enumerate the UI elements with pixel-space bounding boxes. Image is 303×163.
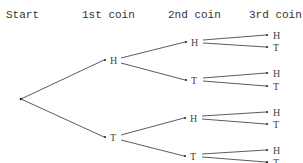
node-3-TTT: T [266,157,279,163]
node-1-H: H [104,55,117,66]
header-start: Start [6,9,39,21]
edge-HH-HHH [203,35,266,40]
header-2nd-coin: 2nd coin [168,9,221,21]
edge-H-HH [121,42,185,58]
node-3-TTH: H [266,145,280,156]
edge-HH-HHT [203,43,266,47]
node-2-HT: T [185,75,197,86]
edge-TT-TTH [202,150,266,154]
node-3-HHH: H [266,30,280,41]
svg-text:H: H [273,107,280,118]
probability-tree-diagram: Start 1st coin 2nd coin 3rd coin H T H T… [0,0,303,163]
svg-text:H: H [191,37,198,48]
svg-text:T: T [273,42,279,53]
svg-text:H: H [273,68,280,79]
edge-H-HT [121,63,185,80]
svg-text:T: T [191,75,197,86]
edge-start-H [21,60,104,99]
node-1-T: T [104,132,116,143]
node-3-HHT: T [266,42,279,53]
svg-text:H: H [190,113,197,124]
node-2-TT: T [184,151,196,162]
svg-text:T: T [273,119,279,130]
svg-text:H: H [273,145,280,156]
edge-start-T [21,99,104,137]
node-2-HH: H [185,37,198,48]
node-3-HTT: T [266,81,279,92]
edge-T-TH [121,118,184,135]
node-2-TH: H [184,113,197,124]
node-3-HTH: H [266,68,280,79]
edge-TH-THH [202,112,266,116]
header-1st-coin: 1st coin [82,9,135,21]
header-3rd-coin: 3rd coin [249,9,302,21]
edge-TH-THT [202,119,266,124]
edge-HT-HTT [203,81,266,86]
svg-text:T: T [273,81,279,92]
svg-text:H: H [110,55,117,66]
svg-text:T: T [273,157,279,163]
edge-HT-HTH [203,73,266,78]
edge-T-TT [121,140,184,156]
node-3-THH: H [266,107,280,118]
svg-text:T: T [190,151,196,162]
node-3-THT: T [266,119,279,130]
svg-text:T: T [110,132,116,143]
svg-text:H: H [273,30,280,41]
edge-TT-TTT [202,157,266,162]
